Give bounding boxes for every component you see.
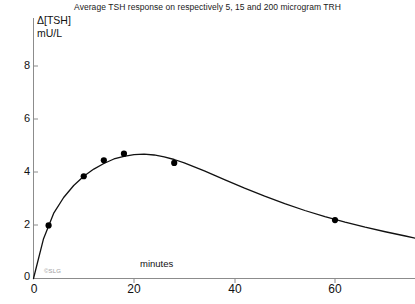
chart-container: Average TSH response on respectively 5, … bbox=[0, 0, 415, 304]
x-axis-ticks bbox=[134, 279, 335, 284]
y-axis-ticks bbox=[34, 66, 39, 225]
data-point bbox=[45, 222, 51, 228]
data-point bbox=[332, 217, 338, 223]
data-point-markers bbox=[45, 151, 338, 229]
response-curve bbox=[34, 154, 415, 278]
data-point bbox=[171, 160, 177, 166]
data-point bbox=[101, 157, 107, 163]
plot-area bbox=[0, 0, 415, 304]
data-point bbox=[81, 173, 87, 179]
data-point bbox=[121, 151, 127, 157]
